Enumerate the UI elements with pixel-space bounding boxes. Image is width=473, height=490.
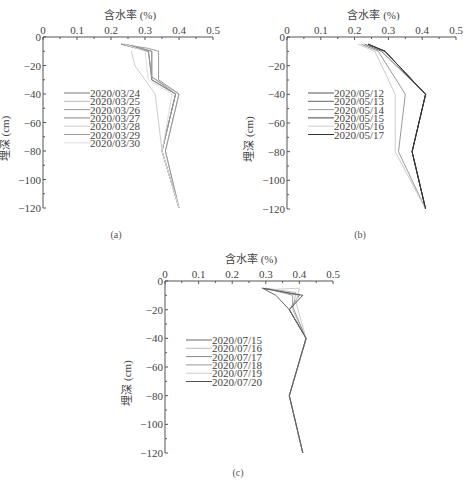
x-tick-label: 0.2 xyxy=(225,268,239,280)
figure-canvas: 00.10.20.30.40.50−20−40−60−80−100−120含水率… xyxy=(0,0,473,490)
series-line xyxy=(266,288,306,453)
series-line xyxy=(262,288,306,453)
series-line xyxy=(266,288,306,453)
y-tick-label: 0 xyxy=(158,275,164,287)
y-tick-label: −40 xyxy=(146,332,164,344)
x-tick-label: 0 xyxy=(284,24,290,36)
x-tick-label: 0.1 xyxy=(314,24,328,36)
legend-label: 2020/05/17 xyxy=(334,129,385,141)
y-tick-label: 0 xyxy=(280,31,286,43)
x-tick-label: 0.2 xyxy=(104,24,118,36)
x-tick-label: 0.3 xyxy=(138,24,152,36)
chart-caption: (a) xyxy=(110,229,121,241)
y-tick-label: −80 xyxy=(146,390,164,402)
x-axis-title: 含水率 (%) xyxy=(347,8,400,22)
y-tick-label: −120 xyxy=(140,447,163,459)
y-tick-label: −60 xyxy=(24,117,42,129)
x-tick-label: 0.4 xyxy=(172,24,186,36)
y-tick-label: −120 xyxy=(18,202,41,214)
legend-label: 2020/03/30 xyxy=(90,137,141,149)
series-line xyxy=(262,288,306,453)
y-tick-label: −100 xyxy=(262,174,285,186)
x-tick-label: 0.4 xyxy=(293,268,307,280)
series-line xyxy=(269,288,306,453)
y-tick-label: 0 xyxy=(36,31,42,43)
x-tick-label: 0.5 xyxy=(326,268,340,280)
chart-caption: (c) xyxy=(232,467,243,479)
y-tick-label: −100 xyxy=(18,174,41,186)
y-tick-label: −40 xyxy=(24,88,42,100)
y-tick-label: −100 xyxy=(140,418,163,430)
chart-b: 00.10.20.30.40.50−20−40−60−80−100−120含水率… xyxy=(243,8,463,241)
legend-label: 2020/07/20 xyxy=(212,376,263,388)
y-tick-label: −60 xyxy=(146,361,164,373)
chart-caption: (b) xyxy=(354,229,366,241)
y-axis-title: 埋深 (cm) xyxy=(0,115,12,161)
chart-a: 00.10.20.30.40.50−20−40−60−80−100−120含水率… xyxy=(0,8,220,241)
x-tick-label: 0.1 xyxy=(70,24,84,36)
chart-c: 00.10.20.30.40.50−20−40−60−80−100−120含水率… xyxy=(121,252,340,479)
series-line xyxy=(262,288,306,453)
x-tick-label: 0.3 xyxy=(259,268,273,280)
x-tick-label: 0.2 xyxy=(348,24,362,36)
y-tick-label: −20 xyxy=(146,304,164,316)
x-tick-label: 0.4 xyxy=(415,24,429,36)
x-tick-label: 0.5 xyxy=(206,24,220,36)
y-tick-label: −20 xyxy=(268,60,286,72)
x-tick-label: 0.1 xyxy=(192,268,206,280)
y-axis-title: 埋深 (cm) xyxy=(243,116,256,162)
x-tick-label: 0 xyxy=(40,24,46,36)
x-axis-title: 含水率 (%) xyxy=(225,252,278,266)
y-tick-label: −40 xyxy=(268,88,286,100)
y-tick-label: −80 xyxy=(24,145,42,157)
y-tick-label: −20 xyxy=(24,60,42,72)
y-tick-label: −60 xyxy=(268,117,286,129)
y-axis-title: 埋深 (cm) xyxy=(121,360,134,406)
y-tick-label: −120 xyxy=(262,203,285,215)
x-tick-label: 0.5 xyxy=(449,24,463,36)
x-axis-title: 含水率 (%) xyxy=(104,8,157,22)
y-tick-label: −80 xyxy=(268,146,286,158)
x-tick-label: 0 xyxy=(162,268,168,280)
x-tick-label: 0.3 xyxy=(382,24,396,36)
